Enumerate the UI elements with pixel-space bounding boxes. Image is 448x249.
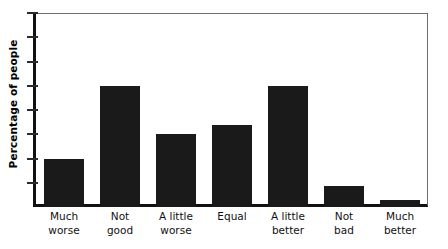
x-axis-label: Notbad bbox=[316, 210, 372, 237]
x-axis-label-line2: worse bbox=[148, 224, 204, 238]
y-axis-tick bbox=[27, 85, 38, 87]
bar bbox=[380, 200, 420, 207]
y-axis-tick bbox=[27, 12, 38, 14]
x-axis-label: Muchworse bbox=[36, 210, 92, 237]
y-axis-title: Percentage of people bbox=[0, 0, 26, 207]
bar bbox=[324, 186, 364, 207]
x-axis-label-line1: Not bbox=[92, 210, 148, 224]
x-axis-label-line2: worse bbox=[36, 224, 92, 238]
y-axis-tick bbox=[27, 109, 38, 111]
x-axis-label: Muchbetter bbox=[372, 210, 428, 237]
x-axis-label-line1: A little bbox=[260, 210, 316, 224]
y-axis-tick bbox=[27, 61, 38, 63]
x-axis-label-line1: Much bbox=[372, 210, 428, 224]
x-axis-label: Notgood bbox=[92, 210, 148, 237]
y-axis-tick bbox=[27, 36, 38, 38]
x-axis-label: Equal bbox=[204, 210, 260, 224]
bar bbox=[212, 125, 252, 207]
x-axis-label-line1: Equal bbox=[204, 210, 260, 224]
x-axis-label-line2: good bbox=[92, 224, 148, 238]
x-axis-label-line2: better bbox=[260, 224, 316, 238]
bar bbox=[156, 134, 196, 207]
bar bbox=[268, 86, 308, 207]
plot-area bbox=[36, 13, 428, 207]
x-axis-labels: MuchworseNotgoodA littleworseEqualA litt… bbox=[36, 210, 428, 249]
y-axis-tick bbox=[27, 182, 38, 184]
x-axis-label: A littlebetter bbox=[260, 210, 316, 237]
y-axis-title-text: Percentage of people bbox=[7, 39, 19, 168]
x-axis-label-line1: A little bbox=[148, 210, 204, 224]
y-axis-tick bbox=[27, 158, 38, 160]
bar-chart: Percentage of people MuchworseNotgoodA l… bbox=[0, 0, 448, 249]
x-axis-label: A littleworse bbox=[148, 210, 204, 237]
x-axis-label-line1: Not bbox=[316, 210, 372, 224]
y-axis-tick bbox=[27, 133, 38, 135]
x-axis-label-line1: Much bbox=[36, 210, 92, 224]
bar bbox=[44, 159, 84, 208]
x-axis-label-line2: bad bbox=[316, 224, 372, 238]
bar bbox=[100, 86, 140, 207]
x-axis-label-line2: better bbox=[372, 224, 428, 238]
